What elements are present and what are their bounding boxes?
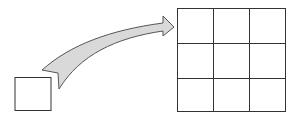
source-square xyxy=(15,78,51,111)
target-grid xyxy=(178,9,286,112)
diagram-canvas xyxy=(0,0,300,119)
curved-arrow xyxy=(42,16,174,89)
